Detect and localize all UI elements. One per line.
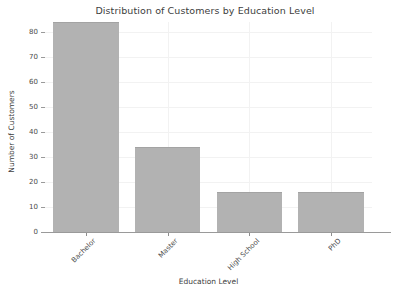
y-tick-mark (41, 57, 45, 58)
bar-high-school (217, 192, 282, 232)
y-tick-mark (41, 157, 45, 158)
y-tick-mark (41, 232, 45, 233)
x-tick-mark (168, 233, 169, 236)
bar-master (135, 147, 200, 232)
y-tick-mark (41, 207, 45, 208)
bar-bachelor (53, 22, 118, 232)
y-tick-label: 80 (10, 29, 38, 36)
x-tick-label: PhD (327, 237, 343, 253)
y-tick-label: 70 (10, 54, 38, 61)
x-axis-label: Education Level (45, 277, 372, 286)
x-tick-label: Master (157, 237, 180, 260)
x-tick-mark (249, 233, 250, 236)
chart-figure: Distribution of Customers by Education L… (0, 0, 410, 298)
x-tick-label: High School (226, 237, 261, 272)
chart-title: Distribution of Customers by Education L… (0, 5, 410, 16)
y-tick-mark (41, 107, 45, 108)
y-tick-mark (41, 32, 45, 33)
plot-area (45, 22, 372, 232)
y-axis-label: Number of Customers (7, 77, 16, 187)
y-tick-mark (41, 182, 45, 183)
y-tick-mark (41, 132, 45, 133)
x-axis-spine (45, 232, 391, 233)
y-tick-label: 0 (10, 229, 38, 236)
y-tick-label: 10 (10, 204, 38, 211)
bar-phd (298, 192, 363, 232)
y-tick-mark (41, 82, 45, 83)
x-tick-mark (86, 233, 87, 236)
x-tick-label: Bachelor (70, 237, 97, 264)
x-tick-mark (331, 233, 332, 236)
